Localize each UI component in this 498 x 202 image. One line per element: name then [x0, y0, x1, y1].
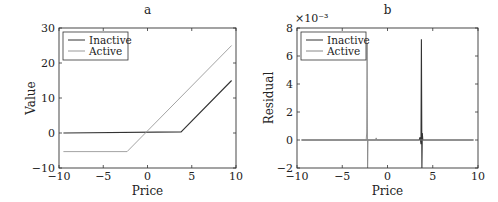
y-tick-label: 8	[286, 22, 293, 35]
legend: InactiveActive	[63, 32, 132, 60]
axis-scale-label: ×10⁻³	[295, 12, 328, 25]
series-line-active	[63, 46, 231, 152]
chart-a: −10−50510−100102030aPriceValueInactiveAc…	[24, 3, 243, 198]
x-tick-label: −5	[334, 170, 350, 183]
y-tick-label: 4	[286, 78, 293, 91]
x-tick-label: 10	[471, 170, 485, 183]
y-tick-label: 20	[41, 57, 55, 70]
chart-b: −10−50510−202468bPriceResidual×10⁻³Inact…	[262, 3, 485, 198]
chart-title: a	[144, 3, 151, 17]
x-tick-label: 0	[144, 170, 151, 183]
y-tick-label: 10	[41, 92, 55, 105]
x-axis-label: Price	[132, 184, 163, 198]
x-axis-label: Price	[372, 184, 403, 198]
series-line-active	[302, 43, 474, 168]
legend-label-active: Active	[88, 45, 122, 57]
x-tick-label: 5	[188, 170, 195, 183]
y-tick-label: 2	[286, 106, 293, 119]
y-tick-label: 6	[286, 50, 293, 63]
x-tick-label: 10	[229, 170, 243, 183]
y-axis-label: Value	[24, 81, 38, 115]
y-tick-label: 30	[41, 22, 55, 35]
series-line-inactive	[63, 81, 231, 134]
y-tick-label: −2	[277, 162, 293, 175]
x-tick-label: −5	[95, 170, 111, 183]
x-tick-label: 5	[429, 170, 436, 183]
y-tick-label: 0	[286, 134, 293, 147]
y-tick-label: −10	[32, 162, 55, 175]
y-axis-label: Residual	[262, 72, 276, 125]
legend-label-active: Active	[326, 45, 360, 57]
x-tick-label: 0	[384, 170, 391, 183]
legend: InactiveActive	[301, 32, 370, 60]
figure: −10−50510−100102030aPriceValueInactiveAc…	[0, 0, 498, 202]
chart-title: b	[384, 3, 392, 17]
y-tick-label: 0	[48, 127, 55, 140]
